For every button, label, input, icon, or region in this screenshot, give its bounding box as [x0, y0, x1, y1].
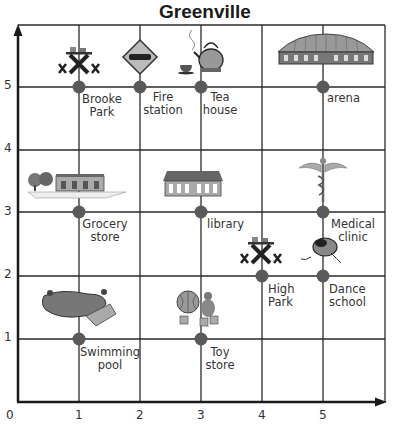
label-brooke-park: Brooke Park — [82, 93, 122, 119]
label-library: library — [207, 218, 244, 231]
x-tick-3: 3 — [197, 408, 205, 422]
label-swimming-pool: Swimming pool — [80, 346, 140, 372]
fire-truck-sign-icon — [123, 40, 157, 74]
y-tick-5: 5 — [4, 78, 12, 92]
label-arena: arena — [327, 92, 360, 105]
y-tick-1: 1 — [4, 330, 12, 344]
y-axis-arrow-icon — [14, 24, 23, 36]
caduceus-icon — [299, 158, 347, 202]
label-medical-clinic: Medical clinic — [330, 218, 376, 244]
arena-icon — [278, 34, 374, 64]
x-tick-1: 1 — [75, 408, 83, 422]
x-tick-2: 2 — [136, 408, 144, 422]
x-tick-4: 4 — [258, 408, 266, 422]
point-toy-store — [195, 333, 208, 346]
y-tick-2: 2 — [4, 267, 12, 281]
coordinate-grid — [0, 0, 394, 431]
point-medical-clinic — [317, 206, 330, 219]
x-tick-5: 5 — [319, 408, 327, 422]
toys-icon — [177, 291, 218, 326]
point-dance-school — [317, 270, 330, 283]
label-fire-station: Fire station — [141, 91, 185, 117]
label-high-park: High Park — [268, 283, 294, 309]
point-high-park — [256, 270, 269, 283]
x-tick-0: 0 — [6, 408, 14, 422]
label-toy-store: Toy store — [204, 346, 236, 372]
label-dance-school: Dance school — [329, 283, 366, 309]
library-icon — [163, 171, 223, 196]
point-swimming-pool — [73, 333, 86, 346]
grocery-store-icon — [28, 172, 126, 198]
y-tick-4: 4 — [4, 141, 12, 155]
label-grocery-store: Grocery store — [82, 218, 128, 244]
label-tea-house: Tea house — [202, 91, 238, 117]
y-tick-3: 3 — [4, 204, 12, 218]
picnic-table-icon — [241, 237, 281, 263]
point-library — [195, 206, 208, 219]
